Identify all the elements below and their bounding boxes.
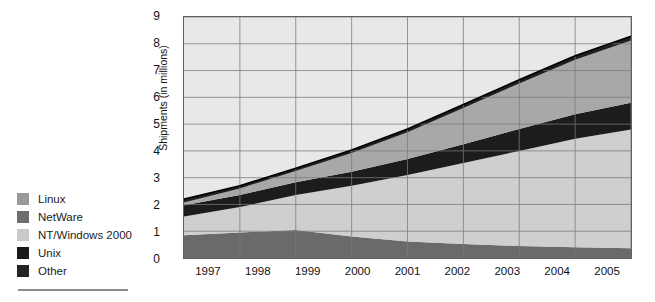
y-tick-label-2: 2 (138, 198, 160, 212)
plot-region (183, 16, 632, 259)
figure-root: Linux NetWare NT/Windows 2000 Unix Other… (0, 0, 655, 302)
x-tick-label-2000: 2000 (345, 265, 371, 277)
x-tick-label-2002: 2002 (445, 265, 471, 277)
legend-swatch-unix (17, 247, 29, 259)
y-tick-label-4: 4 (138, 144, 160, 158)
x-tick-label-2003: 2003 (494, 265, 520, 277)
x-tick-label-1998: 1998 (245, 265, 271, 277)
y-tick-label-5: 5 (138, 117, 160, 131)
stacked-area-svg (184, 17, 631, 258)
legend-swatch-nt-windows-2000 (17, 229, 29, 241)
x-tick-label-1999: 1999 (295, 265, 321, 277)
y-tick-label-8: 8 (138, 36, 160, 50)
y-tick-label-1: 1 (138, 225, 160, 239)
y-tick-label-3: 3 (138, 171, 160, 185)
x-tick-label-1997: 1997 (195, 265, 221, 277)
legend-swatch-netware (17, 211, 29, 223)
legend-label-nt-windows-2000: NT/Windows 2000 (38, 229, 132, 241)
legend-label-netware: NetWare (38, 211, 83, 223)
legend-label-other: Other (38, 265, 67, 277)
chart-area: Shipments (in millions) 0123456789 19971… (142, 0, 655, 302)
y-tick-label-6: 6 (138, 90, 160, 104)
y-tick-label-7: 7 (138, 63, 160, 77)
x-tick-label-2004: 2004 (544, 265, 570, 277)
legend-label-unix: Unix (38, 247, 61, 259)
x-tick-label-2005: 2005 (594, 265, 620, 277)
footer-rule (18, 289, 128, 291)
x-tick-label-2001: 2001 (395, 265, 421, 277)
legend-label-linux: Linux (38, 193, 66, 205)
y-tick-label-9: 9 (138, 9, 160, 23)
y-tick-label-0: 0 (138, 252, 160, 266)
legend-swatch-linux (17, 193, 29, 205)
legend-swatch-other (17, 265, 29, 277)
